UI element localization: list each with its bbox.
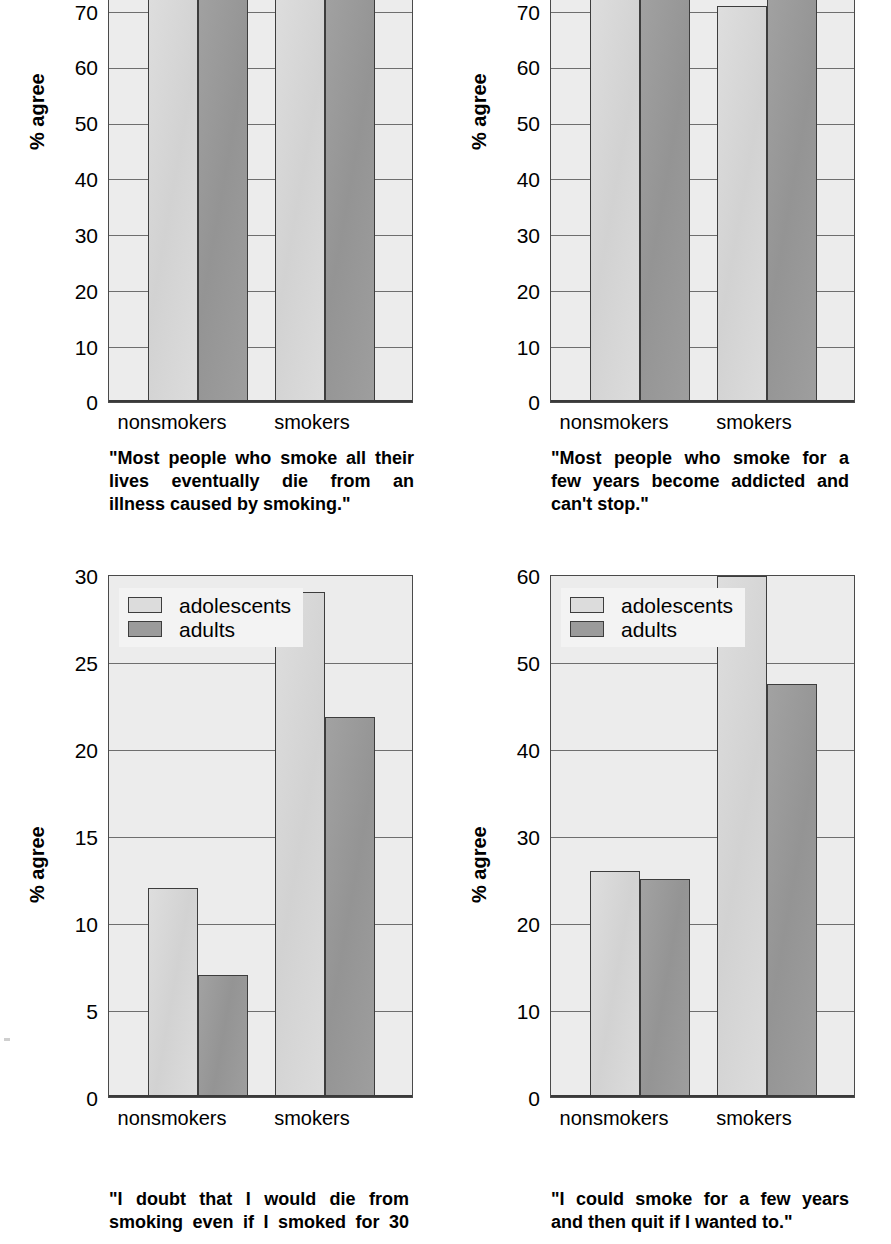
y-axis-label-top-right: % agree	[468, 73, 491, 150]
gridline-25	[109, 663, 412, 664]
bar-nonsmokers-adults	[198, 0, 248, 402]
y-tick-label: 20	[517, 281, 540, 302]
caption-line: few years become addicted and	[551, 470, 849, 493]
bar-smokers-adults	[767, 0, 817, 402]
y-tick-label: 30	[75, 225, 98, 246]
caption-line: "Most people who smoke all their	[109, 447, 414, 470]
legend-bottom-right: adolescents adults	[561, 588, 745, 647]
caption-line: and then quit if I wanted to."	[551, 1211, 849, 1234]
legend-label: adults	[179, 619, 235, 640]
y-tick-label: 30	[517, 225, 540, 246]
plot-area-top-left	[108, 0, 413, 403]
y-tick-label: 30	[75, 566, 98, 587]
legend-swatch-adults-icon	[570, 621, 604, 637]
x-axis-baseline	[551, 400, 854, 402]
gridline-50	[551, 663, 854, 664]
legend-item-adolescents: adolescents	[570, 593, 733, 617]
bar-nonsmokers-adolescents	[148, 888, 198, 1097]
caption-line: can't stop."	[551, 493, 849, 516]
scan-artifact-speck	[4, 1038, 10, 1041]
y-tick-label: 15	[75, 827, 98, 848]
bar-smokers-adolescents	[275, 592, 325, 1097]
x-axis-baseline	[551, 1095, 854, 1097]
y-tick-label: 50	[517, 653, 540, 674]
legend-label: adults	[621, 619, 677, 640]
x-tick-label-smokers: smokers	[248, 1108, 376, 1128]
y-tick-label: 40	[517, 740, 540, 761]
legend-swatch-adults-icon	[128, 621, 162, 637]
caption-line: "Most people who smoke for a	[551, 447, 849, 470]
y-tick-label: 30	[517, 827, 540, 848]
caption-line: smoking even if I smoked for 30	[109, 1211, 409, 1234]
y-tick-label: 0	[528, 1088, 540, 1109]
y-tick-label: 20	[75, 740, 98, 761]
x-tick-label-smokers: smokers	[690, 1108, 818, 1128]
bar-smokers-adolescents	[717, 6, 767, 402]
bar-nonsmokers-adolescents	[590, 0, 640, 402]
y-tick-label: 0	[86, 392, 98, 413]
caption-top-left: "Most people who smoke all their lives e…	[109, 447, 414, 516]
bar-smokers-adults	[325, 717, 375, 1097]
legend-swatch-adolescents-icon	[128, 597, 162, 613]
y-tick-label: 10	[75, 337, 98, 358]
y-tick-label: 0	[86, 1088, 98, 1109]
legend-label: adolescents	[621, 595, 733, 616]
caption-bottom-right: "I could smoke for a few years and then …	[551, 1188, 849, 1234]
x-tick-label-nonsmokers: nonsmokers	[550, 412, 678, 432]
plot-area-top-right	[550, 0, 855, 403]
x-tick-label-nonsmokers: nonsmokers	[108, 1108, 236, 1128]
y-tick-label: 25	[75, 653, 98, 674]
caption-line: "I could smoke for a few years	[551, 1188, 849, 1211]
y-tick-label: 20	[75, 281, 98, 302]
y-tick-label: 20	[517, 914, 540, 935]
y-tick-label: 50	[517, 113, 540, 134]
bar-smokers-adolescents	[275, 0, 325, 402]
caption-line: illness caused by smoking."	[109, 493, 414, 516]
y-tick-label: 10	[517, 337, 540, 358]
bar-smokers-adults	[325, 0, 375, 402]
caption-top-right: "Most people who smoke for a few years b…	[551, 447, 849, 516]
x-tick-label-nonsmokers: nonsmokers	[108, 412, 236, 432]
y-tick-label: 60	[517, 57, 540, 78]
x-tick-label-smokers: smokers	[690, 412, 818, 432]
y-tick-label: 70	[75, 2, 98, 23]
y-tick-label: 0	[528, 392, 540, 413]
bar-smokers-adolescents	[717, 576, 767, 1097]
y-tick-label: 60	[75, 57, 98, 78]
x-axis-baseline	[109, 400, 412, 402]
legend-item-adults: adults	[570, 617, 733, 641]
bar-nonsmokers-adolescents	[590, 871, 640, 1097]
y-axis-label-top-left: % agree	[26, 73, 49, 150]
bar-nonsmokers-adults	[640, 879, 690, 1097]
legend-label: adolescents	[179, 595, 291, 616]
y-tick-label: 40	[517, 169, 540, 190]
caption-bottom-left: "I doubt that I would die from smoking e…	[109, 1188, 409, 1234]
y-axis-label-bottom-right: % agree	[468, 826, 491, 903]
y-tick-label: 40	[75, 169, 98, 190]
plot-area-bottom-left: adolescents adults	[108, 575, 413, 1098]
bar-nonsmokers-adolescents	[148, 0, 198, 402]
caption-line: "I doubt that I would die from	[109, 1188, 409, 1211]
bar-nonsmokers-adults	[640, 0, 690, 402]
y-tick-label: 10	[75, 914, 98, 935]
x-axis-baseline	[109, 1095, 412, 1097]
x-tick-label-smokers: smokers	[248, 412, 376, 432]
y-tick-label: 50	[75, 113, 98, 134]
bar-smokers-adults	[767, 684, 817, 1097]
caption-line: lives eventually die from an	[109, 470, 414, 493]
legend-bottom-left: adolescents adults	[119, 588, 303, 647]
legend-item-adults: adults	[128, 617, 291, 641]
legend-item-adolescents: adolescents	[128, 593, 291, 617]
y-tick-label: 60	[517, 566, 540, 587]
x-tick-label-nonsmokers: nonsmokers	[550, 1108, 678, 1128]
y-tick-label: 5	[86, 1001, 98, 1022]
legend-swatch-adolescents-icon	[570, 597, 604, 613]
bar-nonsmokers-adults	[198, 975, 248, 1097]
y-tick-label: 10	[517, 1001, 540, 1022]
plot-area-bottom-right: adolescents adults	[550, 575, 855, 1098]
y-axis-label-bottom-left: % agree	[26, 826, 49, 903]
y-tick-label: 70	[517, 2, 540, 23]
